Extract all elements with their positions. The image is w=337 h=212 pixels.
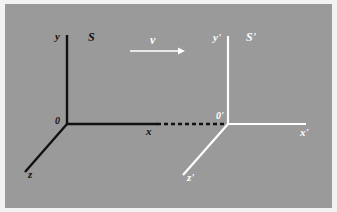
frame-s-name-label: S [88,31,95,43]
frame-s-x-axis-label: x [146,126,152,137]
frame-s-prime-z-axis [183,124,228,175]
velocity-arrowhead-icon [178,48,185,55]
frame-s-prime-origin-label: 0' [216,111,224,121]
frame-s-prime-x-axis-label: x' [300,127,309,138]
frame-s-y-axis-label: y [55,31,60,42]
frame-s-prime-z-axis-label: z' [187,172,194,183]
frame-s-prime-name-label: S' [246,31,256,43]
frame-s-prime-y-axis-label: y' [213,32,221,43]
frame-s-origin-label: 0 [55,116,60,126]
relativity-reference-frames-figure: y S 0 x z v y' S' 0' x' z' [0,0,337,212]
diagram-vector-layer [0,0,337,212]
velocity-label: v [150,34,155,46]
frame-s-z-axis [25,124,67,172]
frame-s-z-axis-label: z [28,169,32,180]
